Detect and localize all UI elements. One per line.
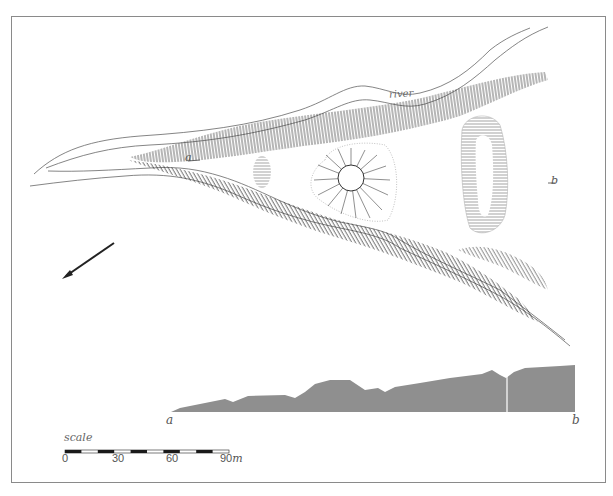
profile-label-a: a — [166, 413, 173, 427]
scale-unit: m — [232, 452, 242, 465]
scale-tick-0: 0 — [62, 452, 68, 464]
elongated-enclosure — [461, 116, 507, 233]
site-plan — [0, 0, 613, 496]
scale-tick-30: 30 — [112, 452, 124, 464]
scale-tick-60: 60 — [166, 452, 178, 464]
river-label: river — [389, 87, 414, 100]
plan-section-label-a: a — [185, 151, 192, 164]
scale-tick-90-value: 90 — [220, 452, 232, 464]
plan-section-label-b: b — [551, 174, 558, 187]
elevation-profile — [171, 365, 575, 412]
profile-label-b: b — [572, 413, 580, 427]
scale-bar — [65, 450, 229, 453]
circular-mound — [311, 143, 397, 221]
small-rampart — [253, 156, 271, 188]
scale-tick-90: 90m — [220, 452, 243, 465]
direction-arrow-icon — [62, 243, 114, 279]
scale-title: scale — [64, 431, 92, 444]
